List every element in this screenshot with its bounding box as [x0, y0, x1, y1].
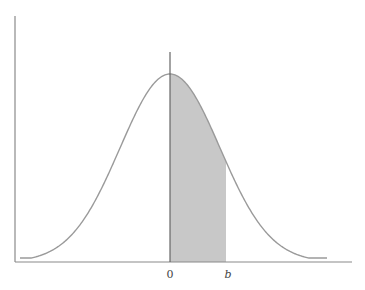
- tick-label-b: b: [224, 268, 231, 281]
- tick-label-zero: 0: [167, 268, 174, 281]
- normal-curve-figure: 0 b: [0, 0, 365, 290]
